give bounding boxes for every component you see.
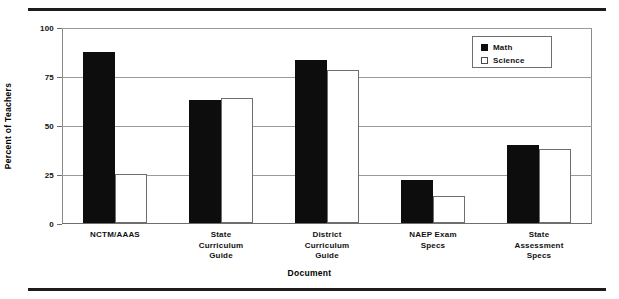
y-tick-label-100: 100 (40, 24, 54, 33)
x-category-label-4: StateAssessmentSpecs (486, 230, 592, 262)
x-category-label-3: NAEP ExamSpecs (380, 230, 486, 251)
y-tick-0 (57, 224, 62, 225)
x-category-line: Curriculum (274, 241, 380, 252)
x-category-line: District (274, 230, 380, 241)
y-tick-25 (57, 175, 62, 176)
x-category-line: NAEP Exam (380, 230, 486, 241)
y-tick-label-75: 75 (45, 73, 54, 82)
bar-science-0 (115, 174, 147, 223)
y-tick-label-0: 0 (49, 220, 54, 229)
filled-square-icon (481, 44, 488, 51)
bottom-rule (28, 288, 606, 291)
x-category-line: NCTM/AAAS (62, 230, 168, 241)
x-category-label-0: NCTM/AAAS (62, 230, 168, 241)
legend-label-math: Math (493, 43, 512, 52)
x-category-label-2: DistrictCurriculumGuide (274, 230, 380, 262)
bar-math-2 (295, 60, 327, 223)
x-category-line: State (486, 230, 592, 241)
x-category-line: Specs (380, 241, 486, 252)
y-tick-label-25: 25 (45, 171, 54, 180)
y-tick-50 (57, 126, 62, 127)
bar-math-3 (401, 180, 433, 223)
x-category-line: State (168, 230, 274, 241)
bar-math-0 (83, 52, 115, 223)
bar-science-3 (433, 196, 465, 223)
x-category-line: Specs (486, 251, 592, 262)
x-category-line: Assessment (486, 241, 592, 252)
bar-math-1 (189, 100, 221, 223)
x-category-line: Guide (274, 251, 380, 262)
y-tick-100 (57, 28, 62, 29)
x-category-line: Curriculum (168, 241, 274, 252)
x-category-line: Guide (168, 251, 274, 262)
bar-math-4 (507, 145, 539, 223)
open-square-icon (481, 57, 488, 64)
figure-container: Percent of Teachers 0255075100 NCTM/AAAS… (0, 0, 619, 299)
legend-label-science: Science (493, 56, 525, 65)
y-axis-title: Percent of Teachers (3, 83, 13, 169)
legend-item-math: Math (481, 41, 551, 53)
bar-science-2 (327, 70, 359, 223)
x-axis-line (62, 223, 592, 224)
top-rule (28, 8, 606, 11)
chart-legend: Math Science (472, 36, 552, 68)
x-category-label-1: StateCurriculumGuide (168, 230, 274, 262)
y-tick-label-50: 50 (45, 122, 54, 131)
legend-item-science: Science (481, 54, 551, 66)
bar-science-1 (221, 98, 253, 223)
bar-science-4 (539, 149, 571, 223)
y-tick-75 (57, 77, 62, 78)
gridline-100 (62, 28, 592, 29)
x-axis-title: Document (0, 268, 619, 278)
